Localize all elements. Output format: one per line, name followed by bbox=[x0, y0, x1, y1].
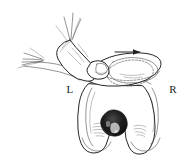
label-right-condyle: R bbox=[169, 83, 177, 95]
illustration-canvas: L R bbox=[0, 0, 188, 162]
anatomical-illustration: L R bbox=[0, 0, 188, 162]
label-left-condyle: L bbox=[67, 83, 74, 95]
